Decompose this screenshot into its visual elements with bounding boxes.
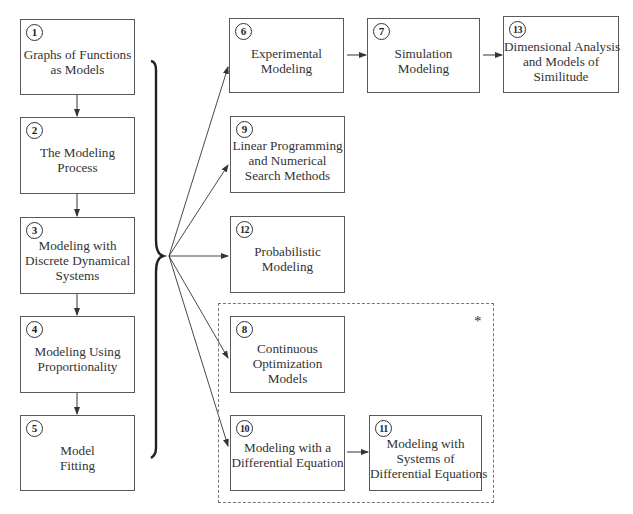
chapter-title: Linear Programming and Numerical Search … <box>231 138 344 183</box>
chapter-box-7: 7 Simulation Modeling <box>367 18 480 93</box>
title-line: Modeling <box>230 61 343 76</box>
chapter-title: Experimental Modeling <box>230 46 343 76</box>
chapter-title: Continuous Optimization Models <box>231 341 344 386</box>
chapter-number-badge: 2 <box>26 122 43 139</box>
chapter-box-6: 6 Experimental Modeling <box>229 18 344 93</box>
chapter-number-badge: 3 <box>26 222 43 239</box>
group-asterisk-marker: * <box>474 313 482 330</box>
title-line: Model <box>21 443 134 458</box>
chapter-number-badge: 6 <box>235 23 252 40</box>
title-line: Graphs of Functions <box>21 47 134 62</box>
chapter-title: The Modeling Process <box>21 145 134 175</box>
chapter-number-badge: 11 <box>375 420 392 437</box>
title-line: Modeling <box>368 61 479 76</box>
title-line: Modeling with <box>21 238 134 253</box>
title-line: Modeling with <box>370 436 481 451</box>
title-line: Systems <box>21 268 134 283</box>
chapter-box-12: 12 Probabilistic Modeling <box>230 216 345 293</box>
chapter-title: Modeling with a Differential Equation <box>231 440 344 470</box>
title-line: Differential Equation <box>231 455 344 470</box>
title-line: Optimization <box>231 356 344 371</box>
chapter-box-10: 10 Modeling with a Differential Equation <box>230 415 345 491</box>
chapter-title: Graphs of Functions as Models <box>21 47 134 77</box>
title-line: Fitting <box>21 458 134 473</box>
chapter-number-badge: 8 <box>236 321 253 338</box>
chapter-number-badge: 10 <box>236 420 253 437</box>
title-line: The Modeling <box>21 145 134 160</box>
title-line: Differential Equations <box>370 466 481 481</box>
title-line: Modeling with a <box>231 440 344 455</box>
chapter-number-badge: 13 <box>509 21 526 38</box>
chapter-number-badge: 7 <box>373 23 390 40</box>
title-line: Probabilistic <box>231 244 344 259</box>
chapter-box-8: 8 Continuous Optimization Models <box>230 316 345 393</box>
title-line: Systems of <box>370 451 481 466</box>
title-line: as Models <box>21 62 134 77</box>
title-line: Process <box>21 160 134 175</box>
title-line: Experimental <box>230 46 343 61</box>
title-line: and Models of <box>504 54 618 69</box>
chapter-title: Modeling with Systems of Differential Eq… <box>370 436 481 481</box>
title-line: Discrete Dynamical <box>21 253 134 268</box>
chapter-title: Probabilistic Modeling <box>231 244 344 274</box>
chapter-box-3: 3 Modeling with Discrete Dynamical Syste… <box>20 217 135 294</box>
chapter-box-9: 9 Linear Programming and Numerical Searc… <box>230 116 345 193</box>
chapter-title: Modeling with Discrete Dynamical Systems <box>21 238 134 283</box>
title-line: Continuous <box>231 341 344 356</box>
title-line: and Numerical <box>231 153 344 168</box>
chapter-number-badge: 12 <box>236 221 253 238</box>
title-line: Linear Programming <box>231 138 344 153</box>
chapter-title: Modeling Using Proportionality <box>21 344 134 374</box>
chapter-title: Simulation Modeling <box>368 46 479 76</box>
title-line: Modeling <box>231 259 344 274</box>
chapter-box-1: 1 Graphs of Functions as Models <box>20 19 135 95</box>
title-line: Modeling Using <box>21 344 134 359</box>
title-line: Models <box>231 371 344 386</box>
chapter-number-badge: 4 <box>26 321 43 338</box>
chapter-title: Dimensional Analysis and Models of Simil… <box>504 39 618 84</box>
title-line: Similitude <box>504 69 618 84</box>
chapter-title: Model Fitting <box>21 443 134 473</box>
title-line: Search Methods <box>231 168 344 183</box>
title-line: Proportionality <box>21 359 134 374</box>
chapter-box-13: 13 Dimensional Analysis and Models of Si… <box>503 16 619 93</box>
chapter-number-badge: 1 <box>26 24 43 41</box>
curly-brace <box>151 61 163 458</box>
chapter-number-badge: 5 <box>26 420 43 437</box>
chapter-box-5: 5 Model Fitting <box>20 415 135 491</box>
chapter-box-2: 2 The Modeling Process <box>20 117 135 194</box>
chapter-box-4: 4 Modeling Using Proportionality <box>20 316 135 393</box>
chapter-box-11: 11 Modeling with Systems of Differential… <box>369 415 482 491</box>
title-line: Simulation <box>368 46 479 61</box>
chapter-number-badge: 9 <box>236 121 253 138</box>
title-line: Dimensional Analysis <box>504 39 618 54</box>
